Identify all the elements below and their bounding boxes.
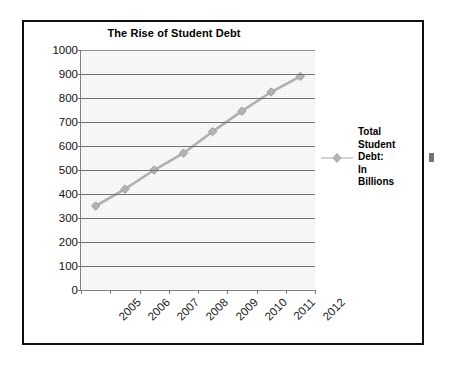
y-axis-label: 600 — [32, 140, 78, 152]
y-axis-tick — [77, 194, 81, 195]
x-axis-label: 2007 — [175, 296, 202, 323]
chart-frame: The Rise of Student Debt 010020030040050… — [22, 20, 424, 345]
gridline — [81, 146, 315, 147]
y-axis-label: 0 — [32, 284, 78, 296]
edge-artifact — [429, 153, 434, 162]
gridline — [81, 98, 315, 99]
x-axis-label: 2010 — [262, 296, 289, 323]
y-axis-tick — [77, 242, 81, 243]
gridline — [81, 266, 315, 267]
y-axis-tick — [77, 170, 81, 171]
y-axis-labels: 01002003004005006007008009001000 — [26, 50, 78, 290]
y-axis-tick — [77, 50, 81, 51]
y-axis-label: 500 — [32, 164, 78, 176]
x-axis-label: 2005 — [116, 296, 143, 323]
chart-title: The Rise of Student Debt — [24, 27, 324, 39]
y-axis-label: 800 — [32, 92, 78, 104]
gridline — [81, 242, 315, 243]
legend-label-line: Total — [358, 126, 395, 139]
legend-label-line: Billions — [358, 176, 395, 189]
gridline — [81, 74, 315, 75]
diamond-marker-icon — [320, 152, 354, 164]
x-axis-label: 2012 — [321, 296, 348, 323]
y-axis-label: 900 — [32, 68, 78, 80]
gridline — [81, 170, 315, 171]
x-axis-label: 2009 — [233, 296, 260, 323]
y-axis-label: 1000 — [32, 44, 78, 56]
x-axis-label: 2011 — [291, 296, 317, 322]
x-axis-label: 2006 — [145, 296, 172, 323]
gridline — [81, 218, 315, 219]
legend-label-line: In — [358, 164, 395, 177]
y-axis-label: 300 — [32, 212, 78, 224]
chart-legend: TotalStudentDebt:InBillions — [320, 126, 420, 189]
legend-label-line: Student — [358, 139, 395, 152]
y-axis-label: 100 — [32, 260, 78, 272]
y-axis-tick — [77, 122, 81, 123]
x-axis-labels: 20052006200720082009201020112012 — [80, 290, 340, 346]
gridline — [81, 122, 315, 123]
y-axis-tick — [77, 266, 81, 267]
legend-entry-label: TotalStudentDebt:InBillions — [358, 126, 395, 189]
legend-label-line: Debt: — [358, 151, 395, 164]
plot-area — [80, 50, 315, 291]
x-axis-label: 2008 — [204, 296, 231, 323]
y-axis-label: 400 — [32, 188, 78, 200]
y-axis-label: 700 — [32, 116, 78, 128]
gridline — [81, 50, 315, 51]
y-axis-tick — [77, 98, 81, 99]
y-axis-label: 200 — [32, 236, 78, 248]
gridline — [81, 194, 315, 195]
y-axis-tick — [77, 74, 81, 75]
y-axis-tick — [77, 146, 81, 147]
y-axis-tick — [77, 218, 81, 219]
